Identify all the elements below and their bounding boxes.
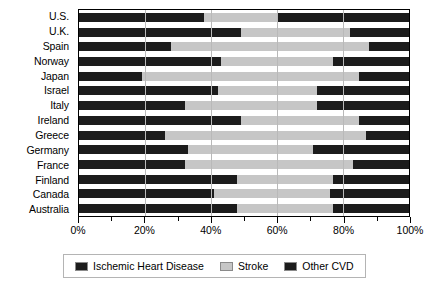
bar-segment [79, 101, 185, 110]
bar-segment [79, 72, 142, 81]
bar-segment [171, 42, 369, 51]
x-axis-tick-major [410, 217, 411, 223]
bar-row [79, 69, 409, 84]
x-axis-tick-label: 0% [54, 225, 102, 236]
bar-row [79, 10, 409, 25]
bar-segment [79, 13, 204, 22]
stacked-bar [79, 131, 409, 140]
bar-row [79, 157, 409, 172]
x-axis-tick-minor [377, 217, 378, 221]
plot-inner [79, 10, 409, 216]
y-axis-label: Canada [0, 187, 74, 202]
bar-segment [359, 72, 409, 81]
bar-segment [237, 175, 333, 184]
x-axis-tick-major [277, 217, 278, 223]
bar-segment [330, 189, 409, 198]
bar-row [79, 201, 409, 216]
y-axis-label: U.K. [0, 24, 74, 39]
bar-segment [333, 204, 409, 213]
bar-segment [79, 189, 214, 198]
bar-segment [185, 101, 317, 110]
stacked-bar [79, 72, 409, 81]
bar-segment [79, 160, 185, 169]
bar-segment [79, 86, 218, 95]
x-axis-tick-major [211, 217, 212, 223]
bar-segment [317, 101, 409, 110]
legend-entry: Other CVD [284, 261, 353, 272]
stacked-bar [79, 86, 409, 95]
bar-segment [214, 189, 330, 198]
stacked-bar [79, 42, 409, 51]
legend-label: Stroke [238, 261, 268, 272]
stacked-bar [79, 160, 409, 169]
legend-swatch [75, 262, 88, 271]
x-axis-tick-label: 80% [320, 225, 368, 236]
x-axis-tick-label: 20% [120, 225, 168, 236]
bar-segment [366, 131, 409, 140]
bar-row [79, 172, 409, 187]
bar-segment [221, 57, 333, 66]
bar-segment [350, 28, 409, 37]
stacked-bar [79, 13, 409, 22]
bar-segment [359, 116, 409, 125]
y-axis-label: Japan [0, 68, 74, 83]
stacked-bar [79, 101, 409, 110]
bar-segment [79, 116, 241, 125]
stacked-bar [79, 145, 409, 154]
stacked-bar [79, 28, 409, 37]
x-axis-tick-minor [111, 217, 112, 221]
stacked-bar [79, 116, 409, 125]
x-axis-tick-minor [244, 217, 245, 221]
x-axis-tick-major [144, 217, 145, 223]
x-axis-tick-label: 40% [187, 225, 235, 236]
x-axis-tick-major [78, 217, 79, 223]
y-axis-label: Ireland [0, 113, 74, 128]
legend-swatch [284, 262, 297, 271]
bar-segment [241, 116, 360, 125]
bar-segment [237, 204, 333, 213]
bar-row [79, 25, 409, 40]
y-axis-label: Norway [0, 54, 74, 69]
y-axis-label: U.S. [0, 9, 74, 24]
stacked-bar [79, 204, 409, 213]
y-axis-label: Spain [0, 39, 74, 54]
bar-row [79, 98, 409, 113]
y-axis-label: Germany [0, 143, 74, 158]
bar-row [79, 54, 409, 69]
legend-entry: Stroke [220, 261, 268, 272]
y-axis-label: Australia [0, 202, 74, 217]
bar-segment [79, 57, 221, 66]
bar-segment [218, 86, 317, 95]
stacked-bar [79, 175, 409, 184]
legend-label: Other CVD [302, 261, 353, 272]
bar-row [79, 128, 409, 143]
bar-segment [79, 42, 171, 51]
bar-segment [188, 145, 313, 154]
y-axis-label: Italy [0, 98, 74, 113]
bar-segment [317, 86, 409, 95]
legend-entry: Ischemic Heart Disease [75, 261, 204, 272]
bar-segment [369, 42, 409, 51]
y-axis-label: Israel [0, 83, 74, 98]
bar-row [79, 113, 409, 128]
bar-segment [277, 13, 409, 22]
bar-segment [353, 160, 409, 169]
x-axis-tick-labels: 0%20%40%60%80%100% [58, 225, 432, 241]
y-axis-category-labels: U.S.U.K.SpainNorwayJapanIsraelItalyIrela… [0, 9, 74, 217]
bar-segment [165, 131, 366, 140]
y-axis-label: Finland [0, 172, 74, 187]
y-axis-label: Greece [0, 128, 74, 143]
bar-segment [79, 131, 165, 140]
bar-segment [79, 204, 237, 213]
x-axis-tick-label: 100% [386, 225, 434, 236]
stacked-bar [79, 189, 409, 198]
x-axis-tick-minor [178, 217, 179, 221]
bar-segment [185, 160, 353, 169]
chart-legend: Ischemic Heart DiseaseStrokeOther CVD [63, 254, 366, 278]
x-axis-tick-minor [310, 217, 311, 221]
bar-segment [142, 72, 360, 81]
x-axis-tick-major [344, 217, 345, 223]
bar-segment [333, 175, 409, 184]
bar-segment [313, 145, 409, 154]
y-axis-label: France [0, 158, 74, 173]
